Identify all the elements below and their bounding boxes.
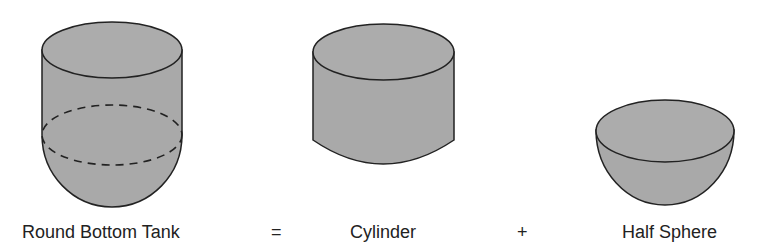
half-sphere-shape	[596, 100, 734, 205]
equals-sign: =	[271, 222, 282, 242]
cylinder-label: Cylinder	[350, 222, 416, 242]
round-bottom-tank-label: Round Bottom Tank	[22, 222, 180, 242]
half-sphere-label: Half Sphere	[622, 222, 717, 242]
round-bottom-tank-shape	[42, 22, 182, 207]
plus-sign: +	[517, 222, 528, 242]
diagram-canvas	[0, 0, 764, 250]
cylinder-shape	[313, 24, 454, 164]
